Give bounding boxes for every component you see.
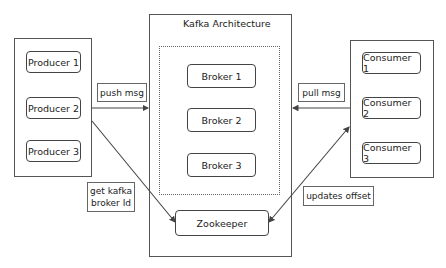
updates-offset-arrow [269,127,349,222]
updates-offset-label: updates offset [303,186,374,206]
connector-arrows [0,0,446,268]
updates-offset-text: updates offset [306,190,371,202]
pull-msg-label: pull msg [298,83,345,102]
pull-msg-text: pull msg [302,87,340,99]
push-msg-text: push msg [100,87,144,99]
get-broker-text-line2: broker Id [91,197,131,209]
get-kafka-broker-id-label: get kafka broker Id [87,182,135,212]
get-broker-text-line1: get kafka [90,185,132,197]
push-msg-label: push msg [97,83,147,102]
